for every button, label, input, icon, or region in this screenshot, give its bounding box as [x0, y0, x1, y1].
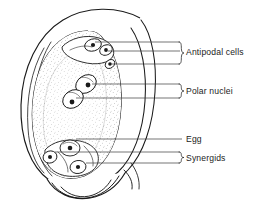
label-texts: Antipodal cells Polar nuclei Egg Synergi…	[186, 47, 244, 163]
egg-nucleolus	[68, 146, 73, 151]
antipodal-nucleolus-3	[108, 62, 112, 66]
label-polar-nuclei: Polar nuclei	[186, 86, 233, 96]
synergid-nucleolus-1	[48, 155, 52, 159]
label-antipodal-cells: Antipodal cells	[186, 47, 244, 57]
ovule-diagram: Antipodal cells Polar nuclei Egg Synergi…	[0, 0, 253, 211]
polar-nucleolus-2	[70, 100, 75, 105]
synergid-nucleolus-2	[76, 165, 80, 169]
polar-nucleolus-1	[86, 83, 91, 88]
label-egg: Egg	[186, 134, 202, 144]
brace-synergids	[179, 152, 184, 163]
brace-polar-nuclei	[179, 84, 184, 98]
antipodal-nucleolus-1	[91, 43, 95, 47]
label-braces	[179, 42, 184, 163]
antipodal-nucleolus-2	[104, 48, 108, 52]
label-synergids: Synergids	[186, 153, 226, 163]
brace-antipodal-cells	[179, 42, 184, 64]
